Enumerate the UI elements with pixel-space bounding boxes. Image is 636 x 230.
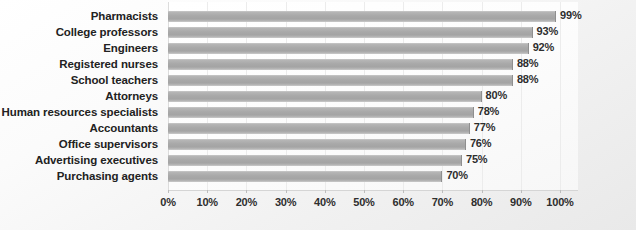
- bar-value-label: 99%: [560, 9, 581, 21]
- x-axis-tick: [246, 190, 247, 193]
- bar-row: 75%: [168, 152, 578, 168]
- x-axis-tick: [325, 190, 326, 193]
- bar: [168, 107, 474, 118]
- bar: [168, 43, 529, 54]
- x-axis-tick-label: 20%: [236, 196, 257, 208]
- bar-value-label: 77%: [474, 121, 495, 133]
- bar-row: 77%: [168, 120, 578, 136]
- bar-value-label: 78%: [478, 105, 499, 117]
- x-axis-tick: [364, 190, 365, 193]
- x-axis-tick-label: 100%: [546, 196, 573, 208]
- bar-row: 88%: [168, 56, 578, 72]
- bar-chart: 99%93%92%88%88%80%78%77%76%75%70% Pharma…: [0, 0, 636, 230]
- x-axis-tick-label: 10%: [196, 196, 217, 208]
- bar: [168, 91, 482, 102]
- bar-row: 88%: [168, 72, 578, 88]
- bar-value-label: 80%: [486, 89, 507, 101]
- bar: [168, 11, 556, 22]
- category-label: Accountants: [89, 120, 158, 136]
- bar-row: 99%: [168, 8, 578, 24]
- x-axis-tick-label: 70%: [432, 196, 453, 208]
- bar-row: 78%: [168, 104, 578, 120]
- bar-value-label: 92%: [533, 41, 554, 53]
- x-axis-tick: [521, 190, 522, 193]
- x-axis-tick: [403, 190, 404, 193]
- bar: [168, 171, 442, 182]
- bar-row: 76%: [168, 136, 578, 152]
- x-axis-tick: [286, 190, 287, 193]
- category-label: School teachers: [71, 72, 158, 88]
- x-axis-tick: [560, 190, 561, 193]
- x-axis-tick-label: 60%: [392, 196, 413, 208]
- category-label: College professors: [56, 24, 158, 40]
- category-label: Attorneys: [105, 88, 158, 104]
- x-axis-tick-label: 0%: [160, 196, 176, 208]
- x-axis-tick-label: 40%: [314, 196, 335, 208]
- bar: [168, 75, 513, 86]
- bar-row: 93%: [168, 24, 578, 40]
- bar: [168, 27, 533, 38]
- x-axis-tick: [168, 190, 169, 193]
- bar-value-label: 75%: [466, 153, 487, 165]
- bar-value-label: 93%: [537, 25, 558, 37]
- bar-row: 70%: [168, 168, 578, 184]
- bar: [168, 59, 513, 70]
- bar-value-label: 88%: [517, 73, 538, 85]
- bar-value-label: 76%: [470, 137, 491, 149]
- category-label: Registered nurses: [59, 56, 158, 72]
- x-axis-tick-label: 80%: [471, 196, 492, 208]
- x-axis-tick-label: 30%: [275, 196, 296, 208]
- x-axis-tick: [482, 190, 483, 193]
- category-label: Office supervisors: [59, 136, 158, 152]
- x-axis-tick: [442, 190, 443, 193]
- bar-row: 92%: [168, 40, 578, 56]
- x-axis-tick: [207, 190, 208, 193]
- bar-value-label: 88%: [517, 57, 538, 69]
- category-axis-labels: PharmacistsCollege professorsEngineersRe…: [0, 2, 164, 190]
- category-label: Advertising executives: [35, 152, 158, 168]
- bar: [168, 155, 462, 166]
- plot-area: 99%93%92%88%88%80%78%77%76%75%70%: [168, 2, 578, 190]
- bar-rows: 99%93%92%88%88%80%78%77%76%75%70%: [168, 2, 578, 190]
- x-axis-tick-label: 50%: [353, 196, 374, 208]
- bar: [168, 139, 466, 150]
- bar-row: 80%: [168, 88, 578, 104]
- category-label: Pharmacists: [91, 8, 158, 24]
- x-axis-tick-label: 90%: [510, 196, 531, 208]
- category-label: Purchasing agents: [57, 168, 158, 184]
- bar: [168, 123, 470, 134]
- category-label: Human resources specialists: [2, 104, 158, 120]
- category-label: Engineers: [103, 40, 158, 56]
- x-axis-line: [168, 190, 578, 191]
- bar-value-label: 70%: [446, 169, 467, 181]
